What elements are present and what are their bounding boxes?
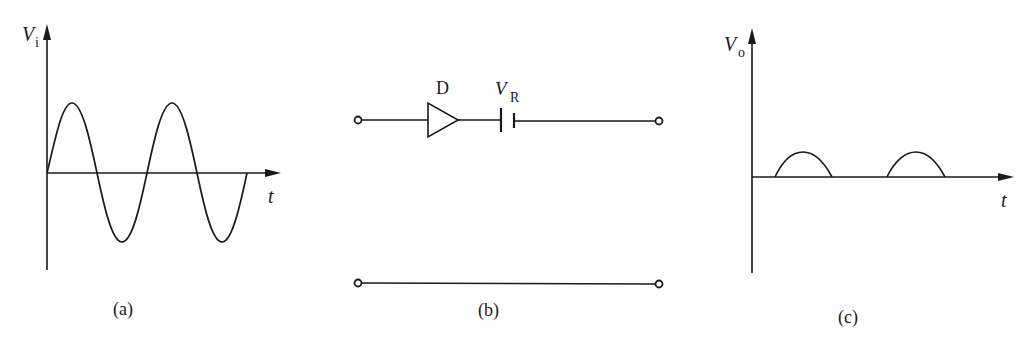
panel-a-x-axis-arrow-icon: [265, 169, 281, 177]
panel-c-y-axis-arrow-icon: [748, 28, 756, 44]
output-terminal-bottom: [656, 281, 663, 288]
panel-c-y-label: V: [724, 33, 739, 55]
panel-c-output-hump-2: [887, 152, 945, 177]
panel-c-output-hump-1: [775, 152, 832, 177]
battery-label-subscript: R: [510, 90, 520, 105]
panel-c-x-label: t: [1001, 189, 1007, 211]
wire-common-bottom: [362, 283, 655, 284]
panel-c-y-label-subscript: o: [738, 45, 745, 60]
battery-label: V: [495, 78, 509, 99]
input-terminal-top: [355, 117, 362, 124]
panel-c-x-axis-arrow-icon: [998, 173, 1014, 181]
panel-a-y-label-subscript: i: [35, 35, 39, 50]
panel-a-caption: (a): [113, 299, 133, 320]
diode-label: D: [436, 78, 449, 98]
panel-c-caption: (c): [838, 307, 858, 328]
output-terminal-top: [656, 118, 663, 125]
diode-icon: [428, 103, 458, 137]
panel-b-circuit: D V R (b): [355, 78, 663, 321]
panel-b-caption: (b): [478, 300, 499, 321]
panel-a-y-axis-arrow-icon: [43, 24, 51, 40]
panel-c-output-waveform: V o t (c): [724, 28, 1014, 328]
diagram-canvas: V i t (a) D V R (b): [0, 0, 1026, 341]
panel-a-input-waveform: V i t (a): [22, 23, 281, 320]
panel-a-x-label: t: [268, 185, 274, 207]
input-terminal-bottom: [355, 280, 362, 287]
